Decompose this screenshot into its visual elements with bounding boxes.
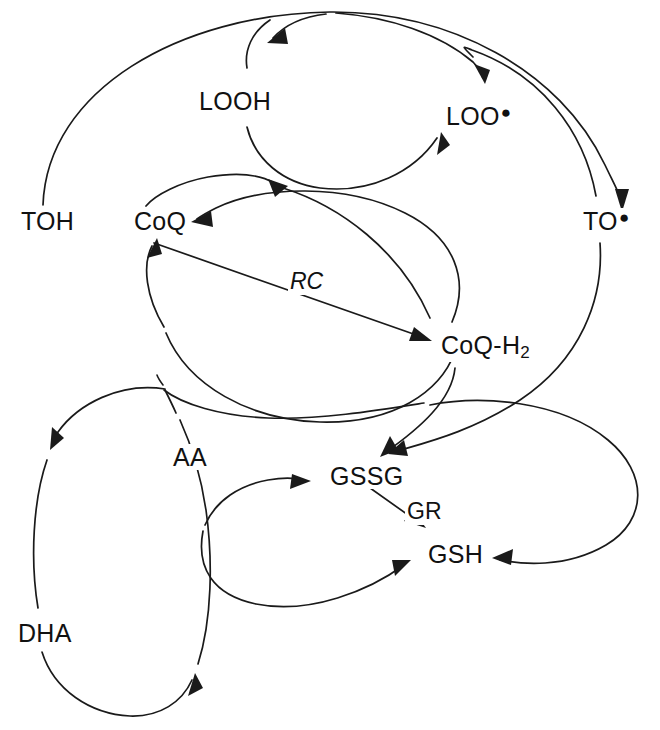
arrow-head-coq-lower xyxy=(147,238,162,258)
node-label-toh: TOH xyxy=(18,208,77,234)
arrow-head-gsh-from-loop xyxy=(392,560,411,576)
node-label-looh: LOOH xyxy=(196,88,274,114)
edge-aa-dha xyxy=(34,388,165,608)
arrow-head-rc xyxy=(409,327,432,341)
edge-looh-loo-radical-lower xyxy=(247,127,450,189)
arrow-head-loo-in xyxy=(474,64,490,84)
arrow-head-gsh-teardrop xyxy=(492,549,513,565)
edge-coq-looh xyxy=(146,175,430,318)
rc-text: RC xyxy=(290,268,323,294)
node-label-coq-h2: CoQ-H2 xyxy=(438,332,533,362)
node-label-aa: AA xyxy=(170,444,210,470)
radical-dot-icon: ● xyxy=(501,103,511,122)
enzyme-label-rc: RC xyxy=(288,268,325,295)
pathway-diagram: TOH LOOH LOO● TO● CoQ CoQ-H2 AA DHA GSSG… xyxy=(0,0,660,730)
arrow-head-gssg-from-aa xyxy=(290,474,311,489)
enzyme-label-gr: GR xyxy=(405,498,444,525)
edge-crossing-strokes xyxy=(157,375,424,418)
node-label-loo-radical: LOO● xyxy=(443,103,514,129)
edge-dha-aa xyxy=(42,390,210,716)
arrow-head-dha xyxy=(50,427,64,450)
coq-text: CoQ xyxy=(134,207,186,235)
diagram-canvas xyxy=(0,0,660,730)
aa-text: AA xyxy=(173,443,207,471)
coqh2-subscript: 2 xyxy=(520,343,530,362)
node-label-to-radical: TO● xyxy=(580,208,632,234)
dha-text: DHA xyxy=(18,619,72,647)
gr-text: GR xyxy=(407,498,442,524)
node-label-dha: DHA xyxy=(15,620,75,646)
arrow-head-coq-upper xyxy=(191,211,213,227)
arrow-head-loo-lower xyxy=(437,132,450,155)
coqh2-text: CoQ-H xyxy=(441,331,520,359)
edge-toh-to-radical xyxy=(43,12,629,212)
radical-dot-icon: ● xyxy=(619,208,629,227)
edge-aa-gssg xyxy=(205,474,311,525)
loo-text: LOO xyxy=(446,102,500,130)
node-label-gssg: GSSG xyxy=(327,463,406,489)
edge-aa-coq-lower xyxy=(147,238,455,422)
gssg-text: GSSG xyxy=(330,462,403,490)
to-text: TO xyxy=(583,207,618,235)
arrow-head-looh-upper xyxy=(267,28,288,44)
edge-coqh2-gssg xyxy=(380,368,455,457)
looh-text: LOOH xyxy=(199,87,271,115)
toh-text: TOH xyxy=(21,207,74,235)
node-label-gsh: GSH xyxy=(425,541,486,567)
gsh-text: GSH xyxy=(428,540,483,568)
edge-loo-radical-looh xyxy=(246,14,326,68)
edge-gsh-aa xyxy=(201,531,411,607)
node-label-coq: CoQ xyxy=(131,208,189,234)
